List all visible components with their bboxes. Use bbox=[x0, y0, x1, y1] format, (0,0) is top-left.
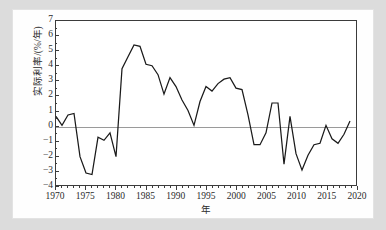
y-axis-tick-label: −4 bbox=[27, 181, 53, 191]
x-axis-minor-tick bbox=[79, 186, 80, 188]
y-axis-tick-label: 4 bbox=[27, 61, 53, 71]
x-axis-minor-tick bbox=[109, 186, 110, 188]
x-axis-minor-tick bbox=[339, 186, 340, 188]
x-axis-label: 年 bbox=[55, 202, 357, 216]
x-axis-minor-tick bbox=[200, 186, 201, 188]
x-axis-minor-tick bbox=[188, 186, 189, 188]
y-axis-tick-mark bbox=[55, 141, 59, 142]
x-axis-tick-mark bbox=[55, 186, 56, 190]
y-axis-minor-tick bbox=[55, 148, 57, 149]
x-axis-minor-tick bbox=[182, 186, 183, 188]
y-axis-minor-tick bbox=[55, 73, 57, 74]
x-axis-minor-tick bbox=[315, 186, 316, 188]
x-axis-minor-tick bbox=[224, 186, 225, 188]
x-axis-minor-tick bbox=[61, 186, 62, 188]
y-axis-minor-tick bbox=[55, 43, 57, 44]
y-axis-tick-label: −1 bbox=[27, 136, 53, 146]
x-axis-minor-tick bbox=[67, 186, 68, 188]
y-axis-tick-label: −2 bbox=[27, 151, 53, 161]
x-axis-tick-mark bbox=[327, 186, 328, 190]
y-axis-tick-label: −3 bbox=[27, 166, 53, 176]
x-axis-minor-tick bbox=[285, 186, 286, 188]
x-axis-tick-label: 2020 bbox=[337, 191, 377, 201]
x-axis-minor-tick bbox=[272, 186, 273, 188]
y-axis-minor-tick bbox=[55, 118, 57, 119]
x-axis-minor-tick bbox=[321, 186, 322, 188]
x-axis-minor-tick bbox=[158, 186, 159, 188]
x-axis-tick-mark bbox=[146, 186, 147, 190]
y-axis-tick-mark bbox=[55, 171, 59, 172]
x-axis-minor-tick bbox=[260, 186, 261, 188]
y-axis-minor-tick bbox=[55, 163, 57, 164]
y-axis-tick-label: 1 bbox=[27, 106, 53, 116]
x-axis-tick-mark bbox=[297, 186, 298, 190]
y-axis-tick-mark bbox=[55, 156, 59, 157]
x-axis-minor-tick bbox=[170, 186, 171, 188]
x-axis-tick-mark bbox=[115, 186, 116, 190]
x-axis-minor-tick bbox=[242, 186, 243, 188]
y-axis-tick-mark bbox=[55, 126, 59, 127]
y-axis-tick-labels: 76543210−1−2−3−4 bbox=[21, 20, 53, 186]
x-axis-minor-tick bbox=[303, 186, 304, 188]
x-axis-tick-mark bbox=[266, 186, 267, 190]
x-axis-minor-tick bbox=[121, 186, 122, 188]
x-axis-tick-mark bbox=[176, 186, 177, 190]
x-axis-minor-tick bbox=[278, 186, 279, 188]
x-axis-tick-mark bbox=[357, 186, 358, 190]
y-axis-tick-mark bbox=[55, 35, 59, 36]
x-axis-minor-tick bbox=[291, 186, 292, 188]
y-axis-tick-mark bbox=[55, 50, 59, 51]
x-axis-tick-mark bbox=[236, 186, 237, 190]
x-axis-minor-tick bbox=[127, 186, 128, 188]
chart-container: 实际利率/(%/年) 76543210−1−2−3−4 年 1970197519… bbox=[13, 10, 373, 218]
y-axis-minor-tick bbox=[55, 28, 57, 29]
x-axis-minor-tick bbox=[97, 186, 98, 188]
x-axis-minor-tick bbox=[134, 186, 135, 188]
x-axis-minor-tick bbox=[309, 186, 310, 188]
x-axis-minor-tick bbox=[152, 186, 153, 188]
y-axis-tick-label: 3 bbox=[27, 76, 53, 86]
y-axis-tick-label: 0 bbox=[27, 121, 53, 131]
x-axis-minor-tick bbox=[230, 186, 231, 188]
x-axis-minor-tick bbox=[254, 186, 255, 188]
x-axis-minor-tick bbox=[91, 186, 92, 188]
x-axis-minor-tick bbox=[212, 186, 213, 188]
y-axis-tick-label: 7 bbox=[27, 15, 53, 25]
x-axis-minor-tick bbox=[345, 186, 346, 188]
y-axis-minor-tick bbox=[55, 88, 57, 89]
y-axis-minor-tick bbox=[55, 133, 57, 134]
x-axis-minor-tick bbox=[164, 186, 165, 188]
x-axis-minor-tick bbox=[194, 186, 195, 188]
screenshot-root: 实际利率/(%/年) 76543210−1−2−3−4 年 1970197519… bbox=[0, 0, 386, 230]
y-axis-tick-mark bbox=[55, 20, 59, 21]
x-axis-tick-mark bbox=[85, 186, 86, 190]
y-axis-minor-tick bbox=[55, 103, 57, 104]
data-series-line bbox=[56, 21, 356, 185]
y-axis-tick-label: 6 bbox=[27, 30, 53, 40]
y-axis-tick-mark bbox=[55, 80, 59, 81]
y-axis-tick-mark bbox=[55, 111, 59, 112]
x-axis-tick-mark bbox=[206, 186, 207, 190]
plot-area bbox=[55, 20, 357, 186]
x-axis-minor-tick bbox=[103, 186, 104, 188]
x-axis-minor-tick bbox=[73, 186, 74, 188]
x-axis-minor-tick bbox=[218, 186, 219, 188]
figure-card: 实际利率/(%/年) 76543210−1−2−3−4 年 1970197519… bbox=[13, 10, 373, 218]
y-axis-tick-mark bbox=[55, 95, 59, 96]
y-axis-minor-tick bbox=[55, 178, 57, 179]
x-axis-minor-tick bbox=[140, 186, 141, 188]
x-axis-minor-tick bbox=[351, 186, 352, 188]
y-axis-minor-tick bbox=[55, 58, 57, 59]
x-axis-minor-tick bbox=[248, 186, 249, 188]
y-axis-tick-label: 5 bbox=[27, 45, 53, 55]
y-axis-tick-label: 2 bbox=[27, 91, 53, 101]
y-axis-tick-mark bbox=[55, 65, 59, 66]
x-axis-minor-tick bbox=[333, 186, 334, 188]
